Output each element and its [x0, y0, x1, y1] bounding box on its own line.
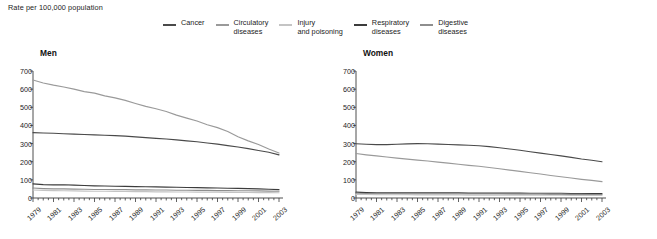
y-tick-label: 0 — [10, 194, 32, 203]
legend-swatch-line-icon — [420, 24, 433, 26]
legend-label: Injury and poisoning — [297, 19, 342, 36]
legend-entry: Injury and poisoning — [279, 19, 342, 36]
y-tick-label: 400 — [333, 121, 355, 130]
x-axis-labels: 1979198119831985198719891991199319951997… — [329, 205, 641, 239]
x-tick-label: 1989 — [127, 205, 145, 222]
x-tick-label: 1997 — [532, 205, 550, 222]
x-tick-label: 1983 — [389, 205, 407, 222]
legend-label: Respiratory diseases — [372, 19, 409, 36]
series-line-circulatory-diseases — [33, 80, 279, 153]
y-axis-labels: 0100200300400500600700 — [329, 69, 355, 202]
y-tick-label: 500 — [333, 103, 355, 112]
x-tick-label: 1979 — [348, 205, 366, 222]
plot-svg — [6, 69, 318, 209]
x-axis-labels: 1979198119831985198719891991199319951997… — [6, 205, 318, 239]
panel-title-men: Men — [40, 48, 57, 58]
legend-label: Digestive diseases — [438, 19, 468, 36]
legend-swatch-line-icon — [354, 24, 367, 26]
x-tick-label: 1985 — [86, 205, 104, 222]
legend-entry: Respiratory diseases — [354, 19, 409, 36]
y-tick-label: 200 — [333, 157, 355, 166]
y-tick-label: 600 — [10, 85, 32, 94]
x-tick-label: 1999 — [230, 205, 248, 222]
legend-label: Cancer — [181, 19, 205, 28]
x-tick-label: 1981 — [368, 205, 386, 222]
x-tick-label: 2001 — [573, 205, 591, 222]
legend-swatch-line-icon — [216, 24, 229, 26]
y-tick-label: 300 — [10, 139, 32, 148]
legend-label: Circulatory diseases — [234, 19, 269, 36]
x-tick-label: 1993 — [168, 205, 186, 222]
x-tick-label: 1995 — [189, 205, 207, 222]
x-tick-label: 1979 — [25, 205, 43, 222]
x-tick-label: 1987 — [107, 205, 125, 222]
y-tick-label: 700 — [10, 67, 32, 76]
y-tick-label: 200 — [10, 157, 32, 166]
x-tick-label: 1999 — [553, 205, 571, 222]
x-tick-label: 1991 — [471, 205, 489, 222]
series-line-circulatory-diseases — [356, 154, 602, 182]
series-line-cancer — [356, 144, 602, 162]
y-tick-label: 600 — [333, 85, 355, 94]
y-tick-label: 400 — [10, 121, 32, 130]
x-tick-label: 1981 — [45, 205, 63, 222]
series-line-cancer — [33, 133, 279, 155]
x-tick-label: 2001 — [250, 205, 268, 222]
y-tick-label: 100 — [333, 175, 355, 184]
axis-unit-label: Rate per 100,000 population — [8, 3, 103, 12]
x-tick-label: 2003 — [594, 205, 612, 222]
y-tick-label: 500 — [10, 103, 32, 112]
y-tick-label: 300 — [333, 139, 355, 148]
chart-legend: CancerCirculatory diseasesInjury and poi… — [163, 19, 479, 36]
y-tick-label: 700 — [333, 67, 355, 76]
x-tick-label: 1987 — [430, 205, 448, 222]
legend-swatch-line-icon — [279, 24, 292, 26]
plot-svg — [329, 69, 641, 209]
legend-entry: Cancer — [163, 19, 205, 28]
plot-area-women: 0100200300400500600700197919811983198519… — [329, 69, 641, 239]
legend-swatch-line-icon — [163, 24, 176, 26]
x-tick-label: 2003 — [271, 205, 289, 222]
y-tick-label: 0 — [333, 194, 355, 203]
x-tick-label: 1995 — [512, 205, 530, 222]
x-tick-label: 1993 — [491, 205, 509, 222]
x-tick-label: 1997 — [209, 205, 227, 222]
x-tick-label: 1985 — [409, 205, 427, 222]
y-tick-label: 100 — [10, 175, 32, 184]
y-axis-labels: 0100200300400500600700 — [6, 69, 32, 202]
legend-entry: Digestive diseases — [420, 19, 468, 36]
x-tick-label: 1983 — [66, 205, 84, 222]
plot-area-men: 0100200300400500600700197919811983198519… — [6, 69, 318, 239]
x-tick-label: 1991 — [148, 205, 166, 222]
x-tick-label: 1989 — [450, 205, 468, 222]
panel-title-women: Women — [363, 48, 393, 58]
legend-entry: Circulatory diseases — [216, 19, 269, 36]
